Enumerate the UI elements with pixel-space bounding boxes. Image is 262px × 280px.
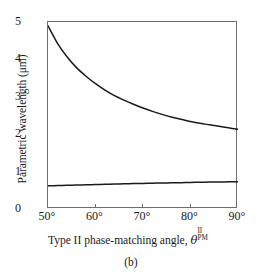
figure-caption: (b) <box>0 256 262 268</box>
x-tick-mark <box>142 204 143 208</box>
y-tick-label: 3 <box>1 90 21 102</box>
theta-indices: IIPM <box>197 232 214 244</box>
curves-svg <box>48 22 238 209</box>
x-tick-mark <box>190 204 191 208</box>
x-axis-title-text: Type II phase-matching angle, <box>48 234 191 246</box>
x-tick-label: 80° <box>173 210 207 223</box>
y-tick-label: 5 <box>1 15 21 27</box>
y-tick-label: 4 <box>1 52 21 64</box>
x-tick-label: 50° <box>30 210 64 223</box>
x-tick-label: 90° <box>220 210 254 223</box>
y-tick-label: 2 <box>1 127 21 139</box>
x-axis-title: Type II phase-matching angle, θIIPM <box>0 232 262 247</box>
x-tick-label: 60° <box>78 210 112 223</box>
curve-signal-branch <box>48 182 238 186</box>
curve-idler-branch <box>48 26 238 130</box>
theta-subscript: PM <box>197 235 207 242</box>
theta-symbol: θ <box>190 233 197 247</box>
figure-panel-b: Parametric wavelength (μm) 012345 50°60°… <box>0 0 262 280</box>
y-tick-label: 1 <box>1 165 21 177</box>
x-tick-mark <box>95 204 96 208</box>
y-tick-label: 0 <box>1 202 21 214</box>
x-tick-label: 70° <box>125 210 159 223</box>
plot-area <box>47 21 237 208</box>
